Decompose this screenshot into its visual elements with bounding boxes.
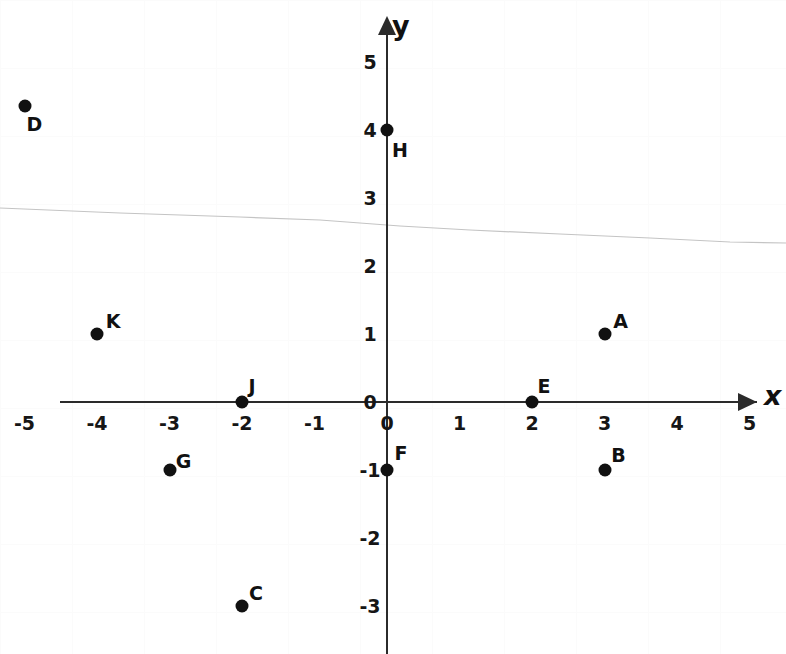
y-tick-label: 3 — [363, 187, 376, 209]
data-point-g — [163, 464, 176, 477]
data-point-c — [236, 600, 249, 613]
x-tick-label: 5 — [743, 412, 756, 434]
point-label-h: H — [392, 139, 408, 161]
x-tick-label: -5 — [14, 412, 35, 434]
point-label-c: C — [249, 582, 263, 604]
y-tick-label: 2 — [363, 255, 376, 277]
point-label-f: F — [395, 442, 408, 464]
x-axis-label: x — [764, 380, 781, 411]
coordinate-plane-figure: x y -5-4-3-2-1012345 543210-1-2-3 DHKAJE… — [0, 0, 786, 654]
point-label-a: A — [613, 310, 628, 332]
x-tick-label: -3 — [159, 412, 180, 434]
y-tick-label: 5 — [363, 51, 376, 73]
y-tick-label: 1 — [363, 323, 376, 345]
data-point-b — [598, 464, 611, 477]
data-point-h — [381, 124, 394, 137]
point-label-k: K — [106, 310, 121, 332]
x-tick-label: -2 — [231, 412, 252, 434]
x-axis-arrow-icon — [738, 393, 757, 411]
y-axis-label: y — [392, 10, 410, 41]
scan-crease-artifact — [0, 206, 786, 246]
y-tick-label: 4 — [363, 119, 376, 141]
x-tick-label: -1 — [304, 412, 325, 434]
data-point-e — [526, 396, 539, 409]
x-tick-label: 4 — [670, 412, 683, 434]
x-tick-label: 0 — [380, 412, 393, 434]
data-point-d — [18, 100, 31, 113]
y-tick-label: 0 — [363, 391, 376, 413]
point-label-e: E — [538, 375, 551, 397]
y-tick-label: -3 — [359, 595, 380, 617]
x-tick-label: 1 — [453, 412, 466, 434]
x-tick-label: 2 — [525, 412, 538, 434]
y-axis-line — [386, 18, 388, 654]
x-axis-line — [60, 401, 757, 403]
x-tick-label: -4 — [86, 412, 107, 434]
data-point-k — [91, 328, 104, 341]
data-point-a — [598, 328, 611, 341]
point-label-d: D — [27, 113, 43, 135]
point-label-b: B — [611, 444, 625, 466]
y-tick-label: -2 — [359, 527, 380, 549]
data-point-j — [236, 396, 249, 409]
point-label-j: J — [248, 375, 255, 397]
y-tick-label: -1 — [359, 459, 380, 481]
data-point-f — [381, 464, 394, 477]
point-label-g: G — [176, 450, 192, 472]
x-tick-label: 3 — [598, 412, 611, 434]
